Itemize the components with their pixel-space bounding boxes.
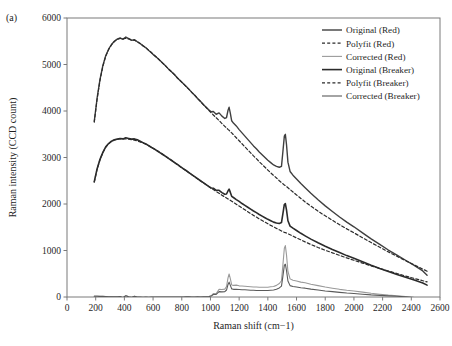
x-tick-label-1600: 1600: [287, 303, 306, 313]
x-tick-label-1000: 1000: [201, 303, 220, 313]
figure-panel-a: (a) 020040060080010001200140016001800200…: [0, 0, 452, 346]
legend-label-5: Corrected (Breaker): [346, 91, 420, 101]
legend-label-0: Original (Red): [346, 25, 400, 35]
x-axis-title: Raman shift (cm−1): [213, 320, 294, 332]
legend-label-4: Polyfit (Breaker): [346, 78, 409, 88]
legend-label-3: Original (Breaker): [346, 65, 414, 75]
raman-spectra-chart: 0200400600800100012001400160018002000220…: [0, 0, 452, 346]
series-line-original-breaker: [94, 138, 427, 285]
x-tick-label-0: 0: [65, 303, 70, 313]
series-line-polyfit-breaker: [94, 139, 427, 282]
chart-legend: Original (Red)Polyfit (Red)Corrected (Re…: [322, 25, 420, 101]
x-tick-label-2400: 2400: [402, 303, 421, 313]
x-tick-label-1200: 1200: [230, 303, 249, 313]
x-tick-label-2000: 2000: [344, 303, 363, 313]
y-tick-label-0: 0: [56, 292, 61, 302]
y-tick-label-5000: 5000: [42, 60, 61, 70]
y-tick-label-4000: 4000: [42, 106, 61, 116]
x-tick-label-1400: 1400: [258, 303, 277, 313]
x-tick-label-1800: 1800: [316, 303, 335, 313]
y-axis-title: Raman intensity (CCD count): [7, 98, 19, 218]
legend-label-1: Polyfit (Red): [346, 39, 394, 49]
x-tick-label-200: 200: [89, 303, 104, 313]
x-tick-label-800: 800: [175, 303, 190, 313]
x-tick-label-400: 400: [117, 303, 132, 313]
y-tick-label-3000: 3000: [42, 153, 61, 163]
y-axis-ticks: 0100020003000400050006000: [42, 13, 67, 302]
x-tick-label-2600: 2600: [431, 303, 450, 313]
y-tick-label-6000: 6000: [42, 13, 61, 23]
legend-label-2: Corrected (Red): [346, 52, 405, 62]
x-tick-label-2200: 2200: [373, 303, 392, 313]
x-axis-ticks: 0200400600800100012001400160018002000220…: [65, 297, 450, 313]
x-tick-label-600: 600: [146, 303, 161, 313]
series-lines: [94, 37, 427, 301]
y-tick-label-2000: 2000: [42, 199, 61, 209]
series-line-corrected-red: [94, 246, 427, 301]
y-tick-label-1000: 1000: [42, 246, 61, 256]
